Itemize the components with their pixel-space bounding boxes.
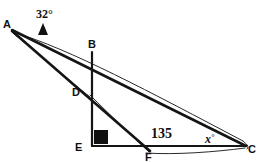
angle-label-32-degrees: 32° [36,7,53,21]
right-angle-marker-e [94,130,108,144]
geometry-figure: A B D E F C 32° 135 x° [0,0,270,162]
angle-arrow-icon [38,23,48,35]
vertex-label-d: D [72,86,80,98]
vertex-label-f: F [145,151,152,162]
vertex-label-a: A [3,18,11,30]
angle-label-x-degree-symbol: ° [211,133,215,142]
angle-label-x-degrees: x° [204,132,215,146]
angle-label-135: 135 [151,126,172,141]
geometry-canvas: A B D E F C 32° 135 x° [0,0,270,162]
segment-a-to-f [12,31,150,151]
vertex-label-b: B [88,38,96,50]
angle-label-x-value: x [204,132,211,146]
vertex-label-c: C [248,143,256,155]
sliver-bottom-f-to-c [146,148,245,154]
vertex-label-e: E [75,141,82,153]
segment-a-to-c [12,30,246,146]
